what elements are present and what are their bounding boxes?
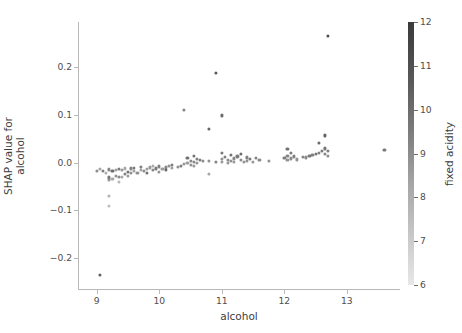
scatter-point [301,155,304,158]
scatter-point [114,168,117,171]
scatter-point [226,161,229,164]
scatter-point [292,155,295,158]
scatter-point [242,160,245,163]
scatter-point [208,172,211,175]
scatter-point [233,161,236,164]
colorbar-tick-label: 6 [420,280,426,289]
scatter-point [189,159,192,162]
x-tick-label: 11 [216,296,228,305]
scatter-point [283,156,286,159]
colorbar-tick-label: 10 [420,105,432,114]
colorbar-tick-mark [414,154,418,155]
y-axis-label: SHAP value for alcohol [2,117,27,195]
y-tick-label: 0.1 [57,110,72,119]
shap-dependence-plot: 0.20.10.0−0.1−0.2 910111213 alcohol SHAP… [0,0,462,333]
scatter-point [158,165,161,168]
colorbar-tick-label: 11 [420,61,432,70]
scatter-point [327,35,330,38]
x-tick-mark [284,290,285,294]
scatter-point [120,169,123,172]
scatter-point [111,177,114,180]
scatter-point [155,167,158,170]
scatter-point [139,168,142,171]
scatter-point [289,152,292,155]
scatter-point [208,127,211,130]
scatter-point [108,204,111,207]
scatter-point [192,164,195,167]
colorbar-tick-label: 8 [420,193,426,202]
scatter-point [323,152,326,155]
scatter-point [223,155,226,158]
scatter-point [167,164,170,167]
x-tick-label: 12 [278,296,290,305]
scatter-point [95,170,98,173]
scatter-point [151,169,154,172]
scatter-point [195,157,198,160]
y-tick-label: −0.1 [50,206,72,215]
scatter-point [133,166,136,169]
scatter-point [317,142,320,145]
scatter-point [123,172,126,175]
x-tick-label: 10 [153,296,165,305]
y-tick-mark [74,210,78,211]
scatter-point [186,162,189,165]
scatter-point [136,172,139,175]
scatter-point [139,165,142,168]
scatter-point [383,148,386,151]
scatter-point [145,172,148,175]
scatter-point [186,156,189,159]
scatter-point [105,171,108,174]
scatter-point [208,159,211,162]
scatter-point [286,148,289,151]
scatter-point [201,160,204,163]
scatter-point [220,161,223,164]
scatter-point [220,151,223,154]
y-axis-label-line-1: SHAP value for [2,117,14,195]
scatter-point [251,160,254,163]
scatter-point [286,154,289,157]
scatter-point [123,167,126,170]
colorbar-tick-mark [414,110,418,111]
scatter-point [148,166,151,169]
y-tick-mark [74,67,78,68]
x-tick-mark [159,290,160,294]
scatter-point [195,161,198,164]
colorbar-tick-mark [414,197,418,198]
scatter-point [245,159,248,162]
scatter-point [101,170,104,173]
scatter-point [164,166,167,169]
x-axis-spine [78,289,400,290]
scatter-point [98,167,101,170]
scatter-point [158,170,161,173]
scatter-point [220,157,223,160]
scatter-point [248,157,251,160]
scatter-point [305,156,308,159]
scatter-point [226,158,229,161]
scatter-point [117,167,120,170]
x-tick-label: 13 [341,296,353,305]
scatter-point [286,158,289,161]
colorbar-tick-label: 9 [420,149,426,158]
y-tick-label: 0.2 [57,63,72,72]
scatter-point [230,159,233,162]
scatter-point [117,181,120,184]
scatter-point [126,174,129,177]
scatter-point [327,154,330,157]
scatter-point [120,175,123,178]
scatter-point [314,152,317,155]
x-tick-mark [222,290,223,294]
colorbar-tick-mark [414,66,418,67]
scatter-point [198,158,201,161]
scatter-point [311,153,314,156]
scatter-point [255,156,258,159]
scatter-point [117,175,120,178]
scatter-point [108,176,111,179]
scatter-point [236,155,239,158]
y-tick-label: 0.0 [57,158,72,167]
scatter-point [214,71,217,74]
scatter-point [220,114,223,117]
scatter-point [323,147,326,150]
scatter-point [230,153,233,156]
scatter-point [164,169,167,172]
scatter-point [258,159,261,162]
